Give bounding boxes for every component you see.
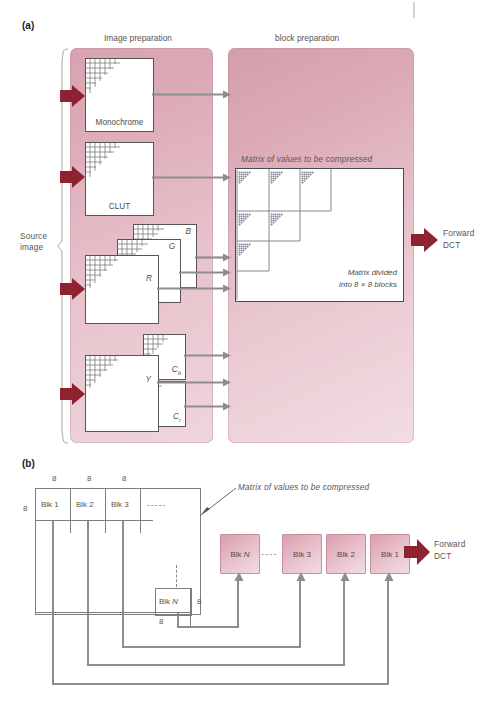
dim-label-top-2: 8 bbox=[87, 474, 91, 483]
route-blk1-vertical-down bbox=[52, 521, 54, 685]
image-box-label-b: B bbox=[186, 227, 191, 236]
image-box-y: Y bbox=[85, 355, 159, 432]
matrix-annotation-text: Matrix of values to be compressed bbox=[238, 483, 369, 493]
connector-arrow-g bbox=[179, 268, 232, 277]
route-blkn-vertical bbox=[237, 581, 239, 628]
source-input-arrow-2 bbox=[60, 166, 86, 188]
source-input-arrow-4 bbox=[60, 383, 86, 405]
route-blk2-vertical-up bbox=[343, 581, 345, 666]
matrix-block-label-3: Blk 3 bbox=[111, 500, 129, 509]
forward-dct-label-b-line2: DCT bbox=[434, 552, 451, 562]
image-box-label-r: R bbox=[146, 274, 152, 283]
source-input-arrow-1 bbox=[60, 85, 86, 107]
dim-label-blkn-below: 8 bbox=[159, 617, 163, 626]
guide-left-edge bbox=[35, 521, 36, 613]
page-corner-tick bbox=[413, 2, 415, 18]
connector-arrow-y bbox=[157, 378, 232, 387]
hatch-corner-icon bbox=[86, 59, 126, 93]
image-box-label-cb: CbCb bbox=[172, 365, 181, 376]
serial-block-blk-3: Blk 3 bbox=[282, 534, 322, 574]
matrix-col-div-2 bbox=[105, 488, 106, 533]
source-image-label-line1: Source bbox=[20, 232, 47, 242]
serial-block-label-blk-3: Blk 3 bbox=[283, 550, 321, 559]
image-box-clut: CLUT bbox=[85, 142, 154, 216]
forward-dct-label-b-line1: Forward bbox=[434, 540, 465, 550]
matrix-block-label-ellipsis: - - - - - bbox=[147, 500, 165, 509]
serial-block-blk-2: Blk 2 bbox=[326, 534, 366, 574]
image-box-label-y: Y bbox=[146, 375, 151, 384]
block-preparation-title: block preparation bbox=[275, 33, 339, 43]
figure-root: (a) Image preparation block preparation … bbox=[0, 0, 484, 716]
matrix-block-label-1: Blk 1 bbox=[41, 500, 59, 509]
route-blk3-vertical-up bbox=[299, 581, 301, 648]
guide-bottom-edge bbox=[35, 612, 190, 613]
matrix-col-div-1 bbox=[70, 488, 71, 533]
forward-dct-arrow-b bbox=[404, 539, 431, 565]
route-blk3-horizontal bbox=[122, 646, 301, 648]
image-box-label-g: G bbox=[169, 242, 175, 251]
matrix-block-label-2: Blk 2 bbox=[76, 500, 94, 509]
connector-arrow-clut bbox=[152, 173, 232, 182]
guide-blkn-bottom bbox=[155, 614, 190, 615]
hatch-corner-icon bbox=[86, 256, 124, 288]
connector-arrow-cr bbox=[184, 402, 232, 411]
image-box-label-cr: CrCr bbox=[173, 412, 181, 423]
forward-dct-label-a-line1: Forward bbox=[443, 229, 474, 239]
route-blk3-vertical-down bbox=[122, 521, 124, 648]
part-b-tag: (b) bbox=[22, 458, 35, 469]
forward-dct-label-a-line2: DCT bbox=[443, 241, 460, 251]
source-image-label-line2: image bbox=[20, 243, 43, 253]
image-box-r: R bbox=[85, 255, 159, 324]
serial-block-label-blk-2: Blk 2 bbox=[327, 550, 365, 559]
matrix-of-values-box: Matrix divided into 8 × 8 blocks bbox=[235, 168, 404, 302]
dim-label-top-3: 8 bbox=[122, 474, 126, 483]
image-box-label-clut: CLUT bbox=[86, 202, 153, 211]
dim-label-top-1: 8 bbox=[52, 474, 56, 483]
source-input-arrow-3 bbox=[60, 278, 86, 300]
image-preparation-title: Image preparation bbox=[104, 33, 172, 43]
matrix-blk-n-label: Blk N bbox=[159, 597, 178, 606]
guide-right-inner bbox=[190, 588, 191, 626]
matrix-annotation-arrow bbox=[198, 487, 238, 517]
route-blkn-horizontal bbox=[177, 626, 239, 628]
connector-arrow-b bbox=[195, 253, 232, 262]
route-blk1-horizontal bbox=[52, 683, 389, 685]
connector-arrow-monochrome bbox=[152, 90, 232, 99]
serial-block-blk-n: Blk N bbox=[220, 534, 260, 574]
serial-block-label-blk-n: Blk N bbox=[221, 550, 259, 559]
image-box-monochrome: Monochrome bbox=[85, 58, 154, 132]
matrix-title: Matrix of values to be compressed bbox=[241, 155, 372, 165]
matrix-caption-line2: into 8 × 8 blocks bbox=[339, 280, 397, 291]
image-box-label-monochrome: Monochrome bbox=[86, 118, 153, 127]
route-blk1-vertical-up bbox=[387, 581, 389, 685]
route-blk2-horizontal bbox=[87, 664, 345, 666]
hatch-corner-icon bbox=[86, 143, 126, 177]
matrix-vertical-ellipsis bbox=[176, 565, 177, 587]
route-blk2-vertical-down bbox=[87, 521, 89, 666]
forward-dct-arrow-a bbox=[411, 228, 439, 252]
part-a-tag: (a) bbox=[22, 20, 34, 31]
serial-dash-separator: - - - - bbox=[261, 549, 276, 558]
matrix-col-div-3 bbox=[140, 488, 141, 533]
connector-arrow-r bbox=[157, 284, 232, 293]
matrix-caption-line1: Matrix divided bbox=[348, 268, 397, 279]
connector-arrow-cb bbox=[184, 351, 232, 360]
dim-label-blkn-right: 8 bbox=[197, 597, 201, 606]
hatch-corner-icon bbox=[86, 356, 124, 388]
dim-label-left: 8 bbox=[23, 504, 27, 513]
